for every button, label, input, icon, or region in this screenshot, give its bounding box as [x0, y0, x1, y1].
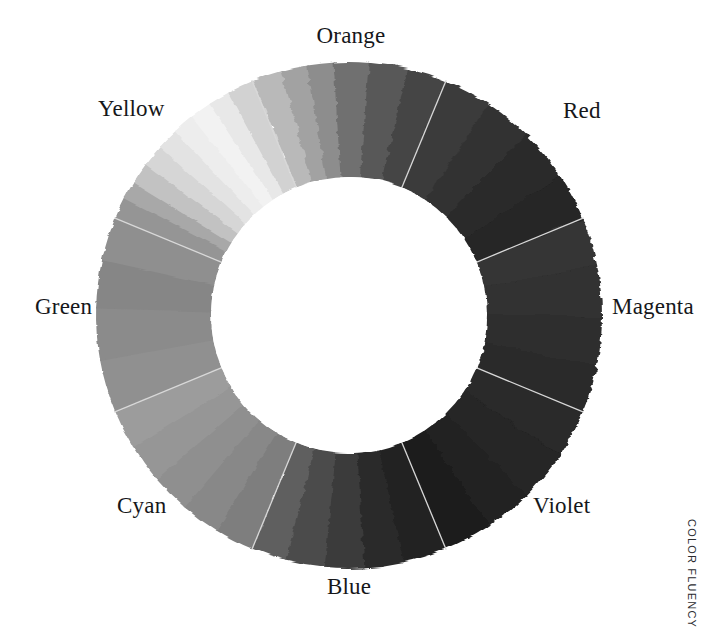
watermark-color-fluency: COLOR FLUENCY	[686, 519, 698, 628]
wheel-label-yellow: Yellow	[98, 96, 165, 122]
wheel-label-magenta: Magenta	[612, 294, 694, 320]
wheel-label-red: Red	[563, 98, 601, 124]
wheel-label-green: Green	[35, 294, 92, 320]
wheel-label-orange: Orange	[0, 23, 705, 49]
wheel-label-blue: Blue	[0, 574, 703, 600]
wheel-label-violet: Violet	[533, 493, 590, 519]
wheel-label-cyan: Cyan	[117, 493, 166, 519]
color-wheel-figure: Orange Red Magenta Violet Blue Cyan Gree…	[0, 0, 707, 641]
wheel-center-hole	[211, 177, 487, 453]
